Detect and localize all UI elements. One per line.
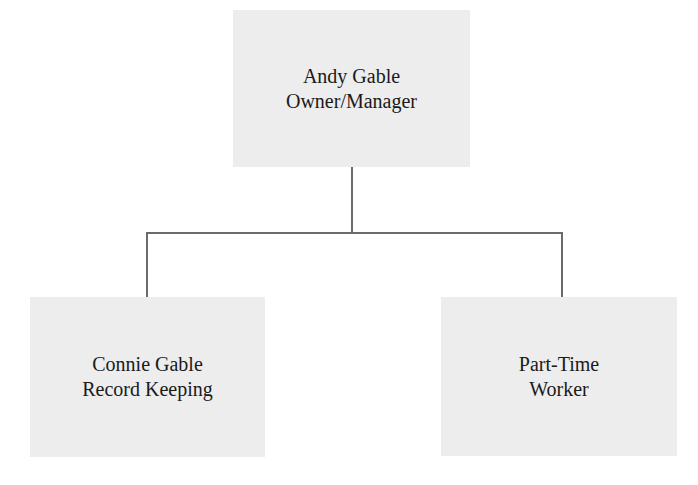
node-role: Owner/Manager: [286, 89, 417, 114]
node-name: Part-Time: [519, 352, 599, 377]
node-role: Record Keeping: [82, 377, 213, 402]
node-name: Andy Gable: [303, 64, 400, 89]
node-record-keeping: Connie Gable Record Keeping: [30, 297, 265, 457]
node-owner-manager: Andy Gable Owner/Manager: [233, 10, 470, 167]
node-name: Connie Gable: [92, 352, 203, 377]
connector-to-part-time: [561, 232, 563, 297]
node-role: Worker: [529, 377, 588, 402]
connector-owner-down: [351, 167, 353, 234]
node-part-time-worker: Part-Time Worker: [441, 297, 677, 456]
connector-horizontal: [146, 232, 563, 234]
connector-to-record-keeping: [146, 232, 148, 297]
